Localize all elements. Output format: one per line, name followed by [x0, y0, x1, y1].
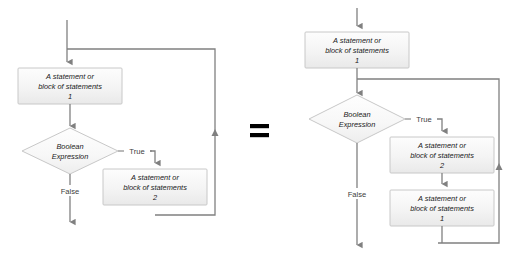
left-true-label: True: [129, 147, 144, 156]
right-process-box-1b-line2: block of statements: [410, 204, 474, 213]
right-decision-line2: Expression: [339, 120, 376, 129]
left-decision-diamond-shape: [22, 128, 118, 174]
left-loopback-arrowhead-up: [212, 129, 219, 136]
right-process-box-2-line2: block of statements: [410, 151, 474, 160]
left-process-box-2-line2: block of statements: [123, 183, 187, 192]
right-false-label: False: [348, 190, 367, 199]
right-process-box-1a: A statement or block of statements 1: [305, 32, 409, 68]
left-false-label: False: [61, 187, 80, 196]
right-process-box-1b: A statement or block of statements 1: [390, 190, 494, 226]
right-false-branch: False: [344, 143, 371, 245]
right-process-box-1b-line3: 1: [440, 214, 444, 223]
left-decision-line2: Expression: [52, 152, 89, 161]
left-true-branch-to-box2: [150, 151, 155, 163]
right-loopback-arrowhead-up: [496, 163, 503, 170]
left-true-branch: True: [118, 147, 155, 164]
left-process-box-1: A statement or block of statements 1: [18, 68, 122, 104]
right-process-box-1b-line1: A statement or: [417, 194, 466, 203]
right-process-box-1a-line1: A statement or: [332, 36, 381, 45]
equals-bar-top: [250, 124, 269, 128]
left-decision-diamond: Boolean Expression: [22, 128, 118, 174]
equivalence-equals-sign: =: [250, 120, 269, 137]
left-process-box-2: A statement or block of statements 2: [103, 169, 207, 205]
right-process-box-1a-line3: 1: [355, 56, 359, 65]
flowchart-diagram: A statement or block of statements 1 Boo…: [0, 0, 526, 259]
right-decision-diamond: Boolean Expression: [309, 95, 405, 143]
right-true-label: True: [416, 115, 431, 124]
left-process-box-1-line3: 1: [68, 92, 72, 101]
flowchart-canvas: A statement or block of statements 1 Boo…: [0, 0, 526, 259]
right-process-box-2-line3: 2: [439, 161, 444, 170]
left-decision-line1: Boolean: [56, 142, 83, 151]
right-decision-diamond-shape: [309, 95, 405, 143]
right-flowchart-group: A statement or block of statements 1 Boo…: [305, 8, 503, 245]
right-process-box-2-line1: A statement or: [417, 141, 466, 150]
right-process-box-2: A statement or block of statements 2: [390, 137, 494, 173]
left-process-box-2-line3: 2: [152, 193, 157, 202]
left-process-box-1-line2: block of statements: [38, 82, 102, 91]
left-flowchart-group: A statement or block of statements 1 Boo…: [18, 20, 219, 222]
right-true-branch: True: [405, 115, 442, 132]
left-process-box-1-line1: A statement or: [45, 72, 94, 81]
left-process-box-2-line1: A statement or: [130, 173, 179, 182]
right-process-box-1a-line2: block of statements: [325, 46, 389, 55]
equals-bar-bottom: [250, 133, 269, 137]
right-decision-line1: Boolean: [343, 110, 370, 119]
equals-sign-text: =: [259, 120, 260, 121]
right-true-branch-to-box2: [437, 119, 442, 131]
left-false-branch: False: [57, 174, 84, 222]
